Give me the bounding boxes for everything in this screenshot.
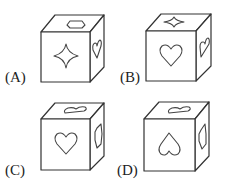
cube-c: [0, 96, 117, 193]
cube-d: [117, 96, 234, 193]
option-b[interactable]: (B): [117, 0, 234, 96]
front-face: [41, 119, 90, 170]
front-face: [144, 119, 195, 171]
option-d[interactable]: (D): [117, 96, 234, 193]
option-c[interactable]: (C): [0, 96, 117, 193]
front-face: [146, 31, 196, 81]
front-face: [41, 32, 90, 82]
cube-b: [117, 0, 234, 96]
option-a[interactable]: (A): [0, 0, 117, 96]
cube-a: [0, 0, 117, 96]
